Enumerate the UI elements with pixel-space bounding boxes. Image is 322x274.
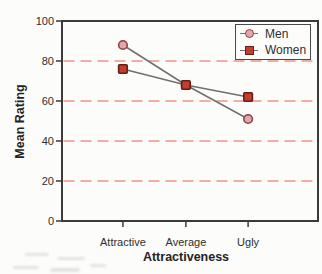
legend-women-marker-icon [245,46,254,55]
legend-label-men: Men [265,27,288,41]
x-tick-label: Ugly [203,235,293,249]
legend: Men Women [235,24,311,60]
legend-label-women: Women [265,43,306,57]
legend-item-women: Women [236,43,310,58]
y-tick-label: 80 [16,54,54,68]
x-axis-title: Attractiveness [116,250,256,264]
y-tick-label: 100 [16,14,54,28]
chart-figure: 020406080100AttractiveAverageUgly Mean R… [0,0,322,274]
legend-men-sample [240,29,258,39]
y-axis-title: Mean Rating [13,72,28,172]
legend-men-marker-icon [245,29,254,38]
legend-item-men: Men [236,26,310,41]
y-tick-label: 0 [16,214,54,228]
legend-women-sample [240,45,258,55]
y-tick-label: 20 [16,174,54,188]
